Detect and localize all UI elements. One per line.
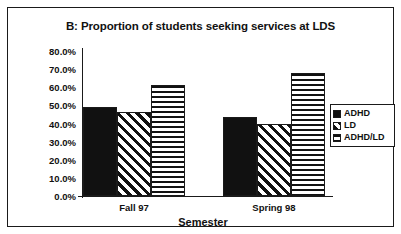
legend-item: ADHD/LD [333, 132, 392, 143]
y-axis-tick-label: 50.0% [14, 100, 76, 111]
chart-frame: B: Proportion of students seeking servic… [7, 7, 394, 227]
y-axis-tick-label: 60.0% [14, 82, 76, 93]
bar-adhd-ld-spring-98 [291, 73, 325, 196]
legend-swatch-horizontal-icon [333, 134, 341, 142]
bar-adhd-spring-98 [223, 117, 257, 196]
bar-ld-fall-97 [117, 112, 151, 196]
plot-area [83, 51, 328, 196]
bar-group [223, 51, 325, 196]
y-axis-tick-label: 0.0% [14, 191, 76, 202]
legend-swatch-solid-icon [333, 110, 341, 118]
legend-item: LD [333, 120, 392, 131]
bar-group [83, 51, 185, 196]
x-axis-line [78, 196, 333, 197]
y-axis-tick-label: 10.0% [14, 172, 76, 183]
x-axis-category-label: Fall 97 [83, 202, 185, 213]
legend-label: ADHD [344, 109, 370, 118]
bar-ld-spring-98 [257, 124, 291, 197]
y-axis-tick-label: 70.0% [14, 64, 76, 75]
y-axis-tick-label: 20.0% [14, 154, 76, 165]
bar-adhd-ld-fall-97 [151, 85, 185, 196]
y-axis-tick-label: 40.0% [14, 118, 76, 129]
legend-item: ADHD [333, 108, 392, 119]
chart-legend: ADHDLDADHD/LD [330, 104, 395, 147]
legend-swatch-diagonal-icon [333, 122, 341, 130]
legend-label: ADHD/LD [344, 133, 385, 142]
y-axis-tick-labels: 80.0%70.0%60.0%50.0%40.0%30.0%20.0%10.0%… [14, 8, 76, 234]
y-axis-tick-label: 80.0% [14, 46, 76, 57]
x-axis-category-label: Spring 98 [223, 202, 325, 213]
x-axis-title: Semester [68, 216, 338, 228]
legend-label: LD [344, 121, 356, 130]
y-axis-tick-label: 30.0% [14, 136, 76, 147]
bar-adhd-fall-97 [83, 107, 117, 196]
